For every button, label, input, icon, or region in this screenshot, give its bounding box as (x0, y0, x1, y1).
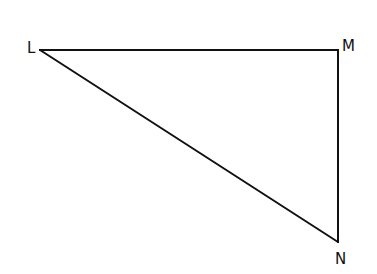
vertex-label-m: M (342, 37, 355, 55)
triangle-diagram: L M N (0, 0, 377, 274)
side-nl (40, 50, 338, 242)
vertex-label-l: L (27, 39, 36, 57)
vertex-label-n: N (335, 250, 346, 268)
